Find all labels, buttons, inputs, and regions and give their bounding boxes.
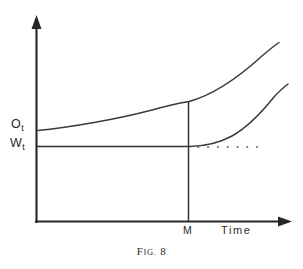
x-axis-arrowhead-icon	[278, 217, 292, 227]
figure-caption-smallcaps: IG.	[143, 247, 156, 257]
x-axis-tick-label-m: M	[183, 224, 192, 236]
figure-8-container: Ot Wt M Time FIG. 8	[0, 0, 303, 269]
lower-curve-path	[190, 84, 288, 147]
label-wt-variable: W	[10, 136, 22, 150]
figure-caption-number: 8	[160, 245, 166, 257]
label-ot-subscript: t	[21, 123, 24, 133]
x-axis-label-time: Time	[221, 224, 251, 236]
y-axis-label-wt: Wt	[10, 136, 25, 152]
figure-caption: FIG. 8	[0, 245, 303, 257]
figure-drawing	[0, 0, 303, 269]
label-ot-variable: O	[11, 117, 21, 131]
y-axis-arrowhead-icon	[32, 15, 42, 29]
upper-curve-path	[37, 43, 279, 131]
label-wt-subscript: t	[22, 142, 25, 152]
y-axis-label-ot: Ot	[11, 117, 24, 133]
